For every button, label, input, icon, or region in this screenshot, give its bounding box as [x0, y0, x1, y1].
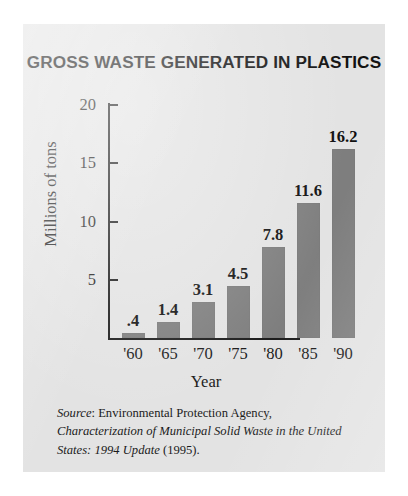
bar-value-1975: 4.5 — [210, 266, 266, 283]
bar-value-1985: 11.6 — [280, 183, 336, 200]
bar-value-1980: 7.8 — [245, 227, 301, 244]
bar-value-1990: 16.2 — [315, 129, 371, 146]
y-axis-title: Millions of tons — [41, 114, 61, 274]
y-axis-label-5: 5 — [36, 272, 96, 289]
figure-panel: GROSS WASTE GENERATED IN PLASTICS 20 15 … — [23, 24, 385, 472]
bar-1985[interactable] — [297, 203, 320, 338]
source-agency: Environmental Protection Agency, — [98, 406, 272, 420]
bar-value-1965: 1.4 — [140, 302, 196, 319]
y-axis-tick-10 — [110, 221, 118, 223]
x-axis-label-1990: '90 — [315, 346, 371, 363]
x-axis-title: Year — [108, 372, 304, 392]
source-label: Source — [57, 406, 92, 420]
bar-1980[interactable] — [262, 247, 285, 338]
bar-1990[interactable] — [332, 149, 355, 338]
y-axis-label-20: 20 — [36, 97, 96, 114]
x-axis-line — [108, 338, 300, 340]
source-note: Source: Environmental Protection Agency,… — [57, 404, 357, 459]
y-axis-tick-15 — [110, 162, 118, 164]
source-publication-line1: Characterization of Municipal Solid Wast… — [57, 424, 304, 438]
y-axis-tick-5 — [110, 279, 118, 281]
bar-value-1970: 3.1 — [175, 282, 231, 299]
bar-1960[interactable] — [122, 333, 145, 338]
y-axis-tick-20 — [110, 104, 118, 106]
source-year: (1995). — [160, 443, 200, 457]
